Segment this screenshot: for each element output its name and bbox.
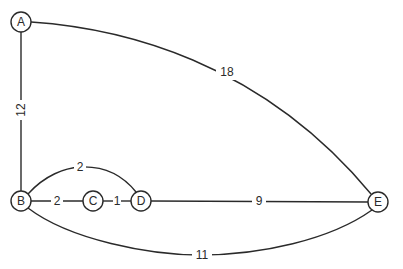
node-c: C <box>83 191 103 211</box>
edge-weight-a-e: 18 <box>220 65 234 79</box>
edge-weight-b-c: 2 <box>54 194 61 208</box>
edge-c-d: 1 <box>103 194 131 208</box>
node-e-label: E <box>374 195 382 209</box>
edge-weight-b-d-arc: 2 <box>77 160 84 174</box>
node-c-label: C <box>89 194 98 208</box>
node-d-label: D <box>137 194 146 208</box>
node-b: B <box>11 191 31 211</box>
edge-a-b: 12 <box>13 32 29 191</box>
edge-weight-a-b: 12 <box>14 103 28 117</box>
node-b-label: B <box>17 194 25 208</box>
edge-b-c: 2 <box>31 194 83 208</box>
edge-weight-d-e: 9 <box>256 194 263 208</box>
graph-diagram: 18 12 2 2 1 9 11 A B <box>0 0 403 269</box>
edge-b-d-arc: 2 <box>28 160 136 194</box>
edge-b-e-arc: 11 <box>28 208 372 263</box>
edge-d-e: 9 <box>151 194 368 209</box>
node-a: A <box>11 12 31 32</box>
node-e: E <box>368 192 388 212</box>
edge-weight-b-e-arc: 11 <box>196 248 209 262</box>
node-a-label: A <box>17 15 25 29</box>
node-d: D <box>131 191 151 211</box>
edge-weight-c-d: 1 <box>114 194 121 208</box>
